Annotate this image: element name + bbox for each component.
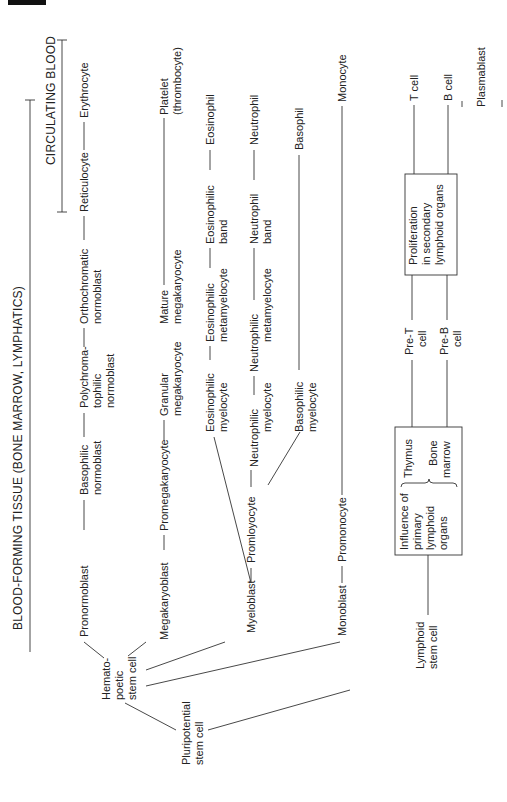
pre-b-l1: Pre-B <box>438 327 450 355</box>
neu-myelocyte-l1: Neutrophilic <box>248 408 260 467</box>
eos-band-l2: band <box>217 220 229 244</box>
eos-metamyelocyte-l2: metamyelocyte <box>217 268 229 342</box>
plasmablast: Plasmablast <box>475 47 487 107</box>
secondary-box-l3: lymphoid organs <box>433 184 445 265</box>
thymus: Thymus <box>402 438 414 478</box>
bone-marrow-l2: marrow <box>440 441 452 478</box>
t-cell: T cell <box>408 75 420 101</box>
pluripotential-l1: Pluripotential <box>180 701 192 765</box>
platelet-l1: Platelet <box>158 78 170 115</box>
platelet-l2: (thrombocyte) <box>171 47 183 115</box>
pre-b-l2: cell <box>451 330 463 347</box>
promonocyte: Promonocyte <box>336 497 348 562</box>
hematopoetic-l3: stem cell <box>126 657 138 700</box>
pronormoblast: Pronormoblast <box>78 565 90 637</box>
mature-l2: megakaryocyte <box>171 249 183 324</box>
promyelocyte: Promloyocyte <box>245 496 257 563</box>
megakaryocytic-lineage: Megakaryoblast Promegakaryocyte Granular… <box>158 47 183 640</box>
promegakaryocyte: Promegakaryocyte <box>158 439 170 531</box>
neu-metamyelocyte-l1: Neutrophilic <box>248 313 260 372</box>
neutrophil: Neutrophil <box>248 95 260 145</box>
lymphoid-stem-l1: Lymphoid <box>414 622 426 669</box>
polychromatophilic-l2: tophilic <box>91 373 103 408</box>
hematopoetic-stem-cell: Hemato- poetic stem cell <box>84 642 340 700</box>
granulocytic-lineage: Myeloblast Promloyocyte Eosinophilic mye… <box>204 94 318 633</box>
erythrocyte: Erythrocyte <box>78 62 90 118</box>
basophilic-normoblast-l2: normoblast <box>91 441 103 495</box>
baso-myelocyte-l1: Basophilic <box>293 381 305 432</box>
eosinophil: Eosinophil <box>204 94 216 145</box>
lymphoid-stem-l2: stem cell <box>427 626 439 669</box>
orthochromatic-l1: Orthochromatic <box>78 248 90 324</box>
hematopoetic-l2: poetic <box>113 670 125 700</box>
circulating-blood-label: CIRCULATING BLOOD <box>44 36 58 165</box>
bone-marrow-l1: Bone <box>427 440 439 466</box>
neu-band-l2: band <box>261 220 273 244</box>
monocytic-lineage: Monoblast Promonocyte Monocyte <box>336 54 348 636</box>
eos-myelocyte-l1: Eosinophilic <box>204 373 216 432</box>
granular-l1: Granular <box>158 373 170 416</box>
eos-metamyelocyte-l1: Eosinophilic <box>204 283 216 342</box>
b-cell: B cell <box>442 74 454 101</box>
header-circulating-blood: CIRCULATING BLOOD <box>44 36 67 212</box>
neu-band-l1: Neutrophil <box>248 194 260 244</box>
eos-myelocyte-l2: myelocyte <box>217 382 229 432</box>
primary-box-l3: lymphoid <box>424 506 436 550</box>
blood-forming-tissue-label: BLOOD-FORMING TISSUE (BONE MARROW, LYMPH… <box>11 286 25 630</box>
baso-myelocyte-l2: myelocyte <box>306 382 318 432</box>
basophil: Basophil <box>293 108 305 150</box>
primary-box-l2: primary <box>411 513 423 550</box>
lymphoid-stem-cell: Lymphoid stem cell <box>414 555 439 669</box>
pre-t-l2: cell <box>416 330 428 347</box>
hematopoiesis-diagram: BLOOD-FORMING TISSUE (BONE MARROW, LYMPH… <box>0 0 507 802</box>
polychromatophilic-l1: Polychroma- <box>78 346 90 408</box>
erythroid-lineage: Pronormoblast Basophilic normoblast Poly… <box>78 62 116 637</box>
eos-band-l1: Eosinophilic <box>204 185 216 244</box>
header-blood-forming-tissue: BLOOD-FORMING TISSUE (BONE MARROW, LYMPH… <box>11 100 35 652</box>
lymphoid-lineage: Influence of primary lymphoid organs Thy… <box>395 47 502 555</box>
neu-myelocyte-l2: myelocyte <box>261 382 273 432</box>
granular-l2: megakaryocyte <box>171 341 183 416</box>
megakaryoblast: Megakaryoblast <box>158 562 170 640</box>
hematopoetic-l1: Hemato- <box>100 657 112 700</box>
myeloblast: Myeloblast <box>245 580 257 633</box>
basophilic-normoblast-l1: Basophilic <box>78 444 90 495</box>
pluripotential-stem-cell: Pluripotential stem cell <box>125 690 350 765</box>
orthochromatic-l2: normoblast <box>91 270 103 324</box>
primary-box-l1: Influence of <box>398 492 410 550</box>
neu-metamyelocyte-l2: metamyelocyte <box>261 268 273 342</box>
monocyte: Monocyte <box>336 54 348 102</box>
pluripotential-l2: stem cell <box>193 722 205 765</box>
primary-box-l4: organs <box>437 516 449 550</box>
brace-icon <box>401 479 457 487</box>
reticulocyte: Reticulocyte <box>78 152 90 212</box>
polychromatophilic-l3: normoblast <box>104 354 116 408</box>
pre-t-l1: Pre-T <box>403 327 415 355</box>
secondary-box-l1: Proliferation <box>407 206 419 265</box>
mature-l1: Mature <box>158 290 170 324</box>
monoblast: Monoblast <box>336 585 348 636</box>
secondary-box-l2: in secondary <box>420 202 432 265</box>
